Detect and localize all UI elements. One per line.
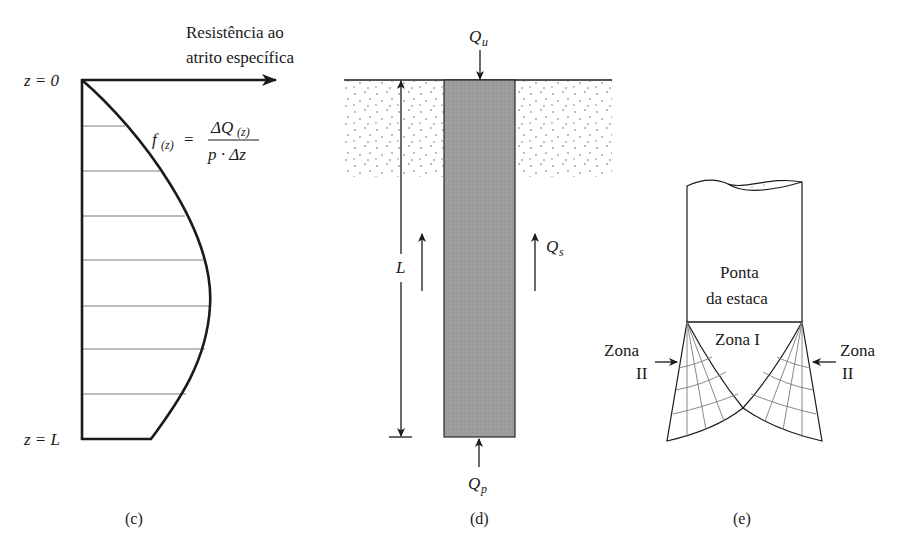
pile-load-transfer-figure: Resistência ao atrito específica z = 0 z… [0, 0, 897, 554]
axis-title-line1: Resistência ao [186, 23, 284, 42]
pile-tip-label-line2: da estaca [706, 289, 768, 308]
svg-text:(z): (z) [161, 138, 174, 152]
panel-e-pile-tip-failure-zones: Ponta da estaca Zona I Zona II Zona II (… [604, 180, 875, 528]
point-resistance-subscript: p [480, 482, 487, 496]
svg-text:f: f [152, 130, 159, 149]
z-top-label: z = 0 [23, 71, 60, 90]
caption-e: (e) [733, 510, 751, 528]
svg-text:ΔQ: ΔQ [210, 118, 233, 137]
length-label: L [395, 258, 405, 277]
ultimate-load-label: Q [469, 27, 481, 46]
caption-c: (c) [125, 510, 143, 528]
svg-text:p · Δz: p · Δz [207, 145, 246, 164]
friction-formula: f (z) = ΔQ (z) p · Δz [152, 118, 259, 164]
point-resistance-label: Q [468, 474, 480, 493]
pile-tip-label-line1: Ponta [720, 263, 759, 282]
axis-title-line2: atrito específica [186, 48, 295, 67]
svg-text:=: = [184, 130, 194, 149]
soil-left [344, 81, 444, 177]
soil-right [515, 81, 612, 177]
zone-2-left-label-line1: Zona [604, 341, 639, 360]
caption-d: (d) [470, 510, 489, 528]
panel-d-pile-loads: L Q u Q s Q p (d) [344, 27, 612, 528]
zone-2-left-label-line2: II [636, 364, 648, 383]
zone-2-right-label-line2: II [842, 364, 854, 383]
shaft-resistance-label: Q [546, 237, 558, 256]
svg-text:(z): (z) [237, 125, 250, 139]
z-bottom-label: z = L [23, 430, 60, 449]
zone-2-right-label-line1: Zona [840, 341, 875, 360]
zone-1-label: Zona I [715, 330, 760, 349]
distribution-hatch-lines [82, 126, 210, 394]
ultimate-load-subscript: u [482, 35, 488, 49]
panel-c-friction-distribution: Resistência ao atrito específica z = 0 z… [23, 23, 295, 528]
shaft-resistance-subscript: s [559, 245, 564, 259]
pile-shaft [444, 80, 515, 437]
